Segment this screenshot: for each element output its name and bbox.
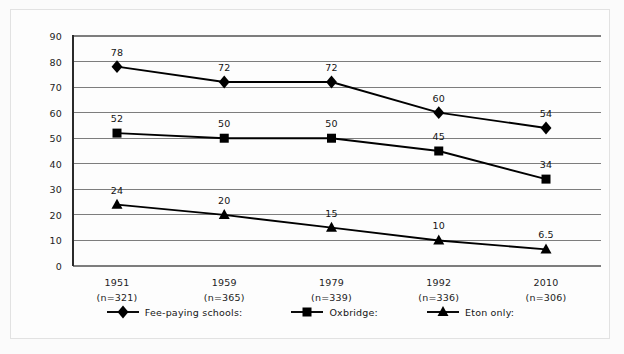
x-axis-year: 1992 (389, 275, 489, 290)
y-axis-tick-label: 0 (22, 261, 62, 272)
data-point-marker (541, 122, 552, 135)
legend-marker-diamond-icon (106, 305, 140, 319)
x-axis-sample-size: (n=321) (67, 290, 167, 305)
chart-page: 0102030405060708090 1951(n=321)1959(n=36… (0, 0, 624, 354)
data-point-marker (112, 199, 123, 209)
data-point-label: 15 (312, 208, 352, 219)
y-axis-tick-label: 20 (22, 209, 62, 220)
legend-item[interactable]: Fee-paying schools: (106, 305, 243, 319)
legend-label: Eton only: (465, 307, 514, 318)
y-axis-tick-label: 10 (22, 235, 62, 246)
data-point-label: 50 (312, 118, 352, 129)
data-point-label: 20 (204, 195, 244, 206)
x-axis-tick-label: 1959(n=365) (174, 275, 274, 305)
data-point-label: 50 (204, 118, 244, 129)
data-point-label: 52 (97, 113, 137, 124)
data-point-marker (220, 134, 229, 143)
x-axis-year: 2010 (496, 275, 596, 290)
x-axis-sample-size: (n=339) (282, 290, 382, 305)
y-axis-tick-label: 30 (22, 184, 62, 195)
x-axis-tick-label: 1951(n=321) (67, 275, 167, 305)
legend-item[interactable]: Oxbridge: (290, 305, 378, 319)
data-point-marker (219, 76, 230, 89)
x-axis-tick-label: 1992(n=336) (389, 275, 489, 305)
x-axis-year: 1951 (67, 275, 167, 290)
x-axis-tick-label: 2010(n=306) (496, 275, 596, 305)
x-axis-year: 1959 (174, 275, 274, 290)
x-axis-sample-size: (n=365) (174, 290, 274, 305)
data-point-label: 6.5 (526, 229, 566, 240)
y-axis-tick-label: 60 (22, 107, 62, 118)
data-point-marker (327, 134, 336, 143)
x-axis-year: 1979 (282, 275, 382, 290)
data-point-marker (326, 76, 337, 89)
data-point-marker (112, 60, 123, 73)
legend-label: Fee-paying schools: (145, 307, 243, 318)
x-axis-sample-size: (n=336) (389, 290, 489, 305)
data-point-marker (542, 175, 551, 184)
y-axis-tick-label: 40 (22, 158, 62, 169)
data-point-label: 60 (419, 93, 459, 104)
y-axis-tick-label: 50 (22, 133, 62, 144)
data-point-label: 34 (526, 159, 566, 170)
legend-item[interactable]: Eton only: (426, 305, 514, 319)
chart-legend: Fee-paying schools:Oxbridge:Eton only: (10, 305, 610, 319)
data-point-label: 10 (419, 220, 459, 231)
data-point-label: 45 (419, 131, 459, 142)
x-axis-sample-size: (n=306) (496, 290, 596, 305)
legend-marker-triangle-icon (426, 305, 460, 319)
data-point-label: 54 (526, 108, 566, 119)
data-point-label: 72 (204, 62, 244, 73)
y-axis-tick-label: 80 (22, 56, 62, 67)
y-axis-tick-label: 70 (22, 82, 62, 93)
data-point-marker (113, 129, 122, 138)
x-axis-tick-label: 1979(n=339) (282, 275, 382, 305)
data-point-marker (434, 147, 443, 156)
data-point-marker (433, 106, 444, 119)
legend-label: Oxbridge: (329, 307, 378, 318)
y-axis-tick-label: 90 (22, 31, 62, 42)
data-point-label: 78 (97, 47, 137, 58)
data-point-label: 72 (312, 62, 352, 73)
data-point-label: 24 (97, 185, 137, 196)
legend-marker-square-icon (290, 305, 324, 319)
